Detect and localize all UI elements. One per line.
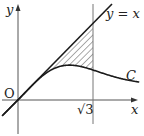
curve-c xyxy=(3,65,139,115)
origin-label: O xyxy=(4,86,15,101)
x-axis-label: x xyxy=(131,102,139,117)
line-label: y = x xyxy=(105,6,141,21)
sqrt3-label: √3 xyxy=(77,102,94,117)
curve-label: C xyxy=(126,68,136,83)
y-axis-arrow-icon xyxy=(16,4,21,11)
y-axis-label: y xyxy=(5,2,14,17)
diagram-canvas: y x O y = x C √3 xyxy=(0,0,144,136)
